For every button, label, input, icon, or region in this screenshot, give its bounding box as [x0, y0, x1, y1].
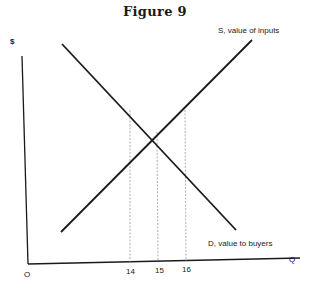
x-axis-label: Q	[289, 255, 295, 264]
tick-15: 15	[155, 266, 164, 275]
x-axis	[28, 258, 300, 264]
y-axis-label: $	[10, 37, 15, 46]
supply-label: S, value of inputs	[218, 26, 279, 35]
origin-label: O	[24, 270, 30, 279]
demand-label: D, value to buyers	[208, 239, 272, 248]
y-axis	[22, 56, 28, 264]
supply-curve	[61, 40, 252, 232]
guide-line-16	[185, 110, 186, 261]
demand-curve	[62, 44, 236, 230]
guide-line-15	[157, 132, 158, 261]
tick-16: 16	[182, 265, 191, 274]
tick-14: 14	[126, 267, 135, 276]
supply-demand-chart: S, value of inputs D, value to buyers Q …	[0, 0, 310, 291]
